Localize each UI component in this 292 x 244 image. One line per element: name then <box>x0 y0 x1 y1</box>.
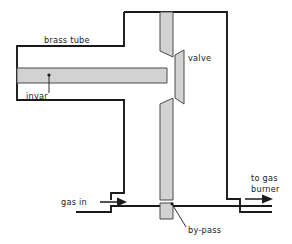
label-invar: invar <box>26 91 48 101</box>
gas-valve-diagram: brass tube invar valve by-pass gas in to… <box>0 0 292 244</box>
burner-arrow-head <box>262 195 273 204</box>
label-to-gas-burner-line1: to gas <box>251 173 278 183</box>
lower-valve-seat <box>160 98 173 200</box>
label-brass-tube: brass tube <box>44 35 90 45</box>
label-by-pass: by-pass <box>188 225 221 235</box>
upper-valve-seat <box>160 12 173 57</box>
valve-disc <box>175 50 184 104</box>
invar-leader-dot <box>47 73 50 76</box>
by-pass-leader-line <box>172 204 186 227</box>
label-valve: valve <box>188 53 211 63</box>
label-to-gas-burner-line2: burner <box>251 184 280 194</box>
invar-rod <box>17 68 167 83</box>
by-pass-block <box>160 203 173 219</box>
label-gas-in: gas in <box>61 197 87 207</box>
schematic-svg: brass tube invar valve by-pass gas in to… <box>0 0 292 244</box>
by-pass-leader-dot <box>171 203 174 206</box>
chamber-outline-right <box>124 12 272 206</box>
